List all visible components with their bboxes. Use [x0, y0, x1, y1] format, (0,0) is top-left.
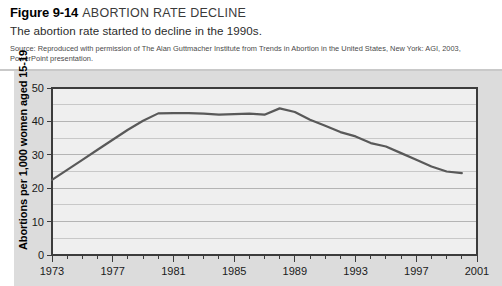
svg-text:1989: 1989	[283, 265, 307, 277]
figure-header: Figure 9-14ABORTION RATE DECLINE The abo…	[0, 0, 502, 71]
svg-text:1993: 1993	[343, 265, 367, 277]
svg-text:2001: 2001	[465, 265, 489, 277]
figure-title-line: Figure 9-14ABORTION RATE DECLINE	[10, 5, 492, 21]
svg-text:30: 30	[32, 149, 44, 161]
svg-text:20: 20	[32, 182, 44, 194]
figure-title: ABORTION RATE DECLINE	[82, 6, 246, 20]
svg-text:40: 40	[32, 115, 44, 127]
figure-number: Figure 9-14	[10, 5, 78, 20]
svg-text:0: 0	[38, 249, 44, 261]
figure-subtitle: The abortion rate started to decline in …	[10, 23, 492, 38]
figure-root: Figure 9-14ABORTION RATE DECLINE The abo…	[0, 0, 502, 286]
svg-text:1997: 1997	[404, 265, 428, 277]
figure-source: Source: Reproduced with permission of Th…	[10, 44, 492, 63]
chart-area: Abortions per 1,000 women aged 15-19 010…	[0, 71, 502, 286]
svg-text:10: 10	[32, 216, 44, 228]
svg-text:1981: 1981	[161, 265, 185, 277]
svg-text:50: 50	[32, 82, 44, 94]
svg-text:1973: 1973	[40, 265, 64, 277]
svg-text:1977: 1977	[100, 265, 124, 277]
line-chart-svg: 0102030405019731977198119851989199319972…	[0, 71, 502, 286]
svg-text:1985: 1985	[222, 265, 246, 277]
